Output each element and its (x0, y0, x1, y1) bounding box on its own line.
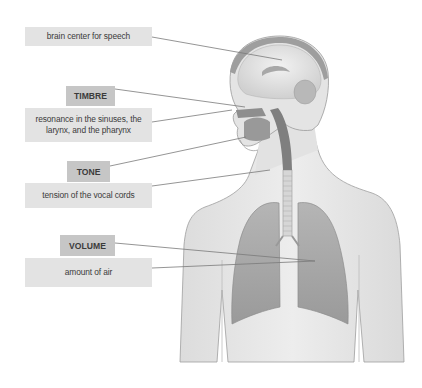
brain-center-text: brain center for speech (47, 31, 130, 42)
volume-description-text: amount of air (65, 267, 113, 278)
speech-anatomy-diagram: brain center for speech TIMBRE resonance… (0, 0, 422, 388)
volume-heading-text: VOLUME (69, 241, 106, 251)
leader-resonance (152, 110, 232, 122)
timbre-heading-text: TIMBRE (74, 91, 107, 101)
timbre-description-text: resonance in the sinuses, the larynx, an… (31, 114, 146, 136)
label-tone-description: tension of the vocal cords (25, 183, 152, 208)
label-volume-heading: VOLUME (60, 235, 115, 256)
label-tone-heading: TONE (67, 161, 110, 182)
leader-timbre (115, 89, 245, 107)
label-brain-center: brain center for speech (25, 27, 152, 46)
tone-heading-text: TONE (77, 167, 101, 177)
label-volume-description: amount of air (25, 258, 152, 287)
label-timbre-heading: TIMBRE (66, 86, 115, 106)
tone-description-text: tension of the vocal cords (42, 190, 134, 201)
torso (180, 128, 404, 362)
label-timbre-description: resonance in the sinuses, the larynx, an… (25, 108, 152, 142)
